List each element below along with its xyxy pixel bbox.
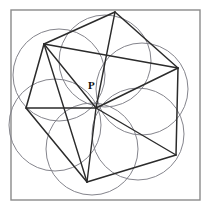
hexagon-diagonal xyxy=(96,108,176,155)
construction-circle xyxy=(9,79,101,171)
hexagon-edge xyxy=(87,155,176,182)
hexagon-chord xyxy=(44,44,87,182)
hexagon-edge xyxy=(26,44,44,108)
hexagon-diagonal xyxy=(44,44,96,108)
geometric-figure: P xyxy=(0,0,212,214)
hexagon-diagonal xyxy=(96,68,178,108)
hexagon-edge xyxy=(115,12,178,68)
hexagon-diagonal xyxy=(87,108,96,182)
hexagon-diagonal xyxy=(96,12,115,108)
construction-circles-group xyxy=(9,15,188,195)
hexagon-diagonals-group xyxy=(26,12,178,182)
hexagon-edges-group xyxy=(26,12,178,182)
hexagon-edge xyxy=(176,68,178,155)
point-label-p: P xyxy=(88,80,95,91)
geometry-canvas xyxy=(0,0,212,214)
hexagon-edge xyxy=(44,12,115,44)
hexagon-chord xyxy=(44,44,178,68)
